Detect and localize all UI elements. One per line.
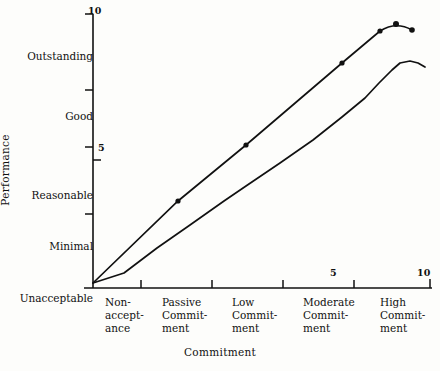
y-category-good: Good bbox=[65, 111, 93, 122]
x-category-line: Passive bbox=[162, 296, 207, 309]
data-line-overlay bbox=[93, 26, 412, 283]
x-axis-title: Commitment bbox=[0, 347, 440, 358]
x-category-line: ment bbox=[380, 322, 425, 335]
data-point-markers bbox=[175, 21, 414, 204]
chart-figure: Performance 10 5 Outstanding Good Reason… bbox=[0, 0, 440, 371]
data-line-performance bbox=[93, 61, 425, 283]
y-category-unacceptable: Unacceptable bbox=[20, 293, 93, 304]
x-category-line: Low bbox=[232, 296, 277, 309]
x-category-passive-commitment: Passive Commit- ment bbox=[162, 296, 207, 334]
x-category-line: Commit- bbox=[162, 309, 207, 322]
y-tick-label-10: 10 bbox=[88, 6, 102, 16]
x-category-line: accept- bbox=[105, 309, 144, 322]
x-axis-ticks bbox=[141, 279, 430, 288]
x-category-line: Commit- bbox=[380, 309, 425, 322]
y-category-minimal: Minimal bbox=[49, 241, 93, 252]
x-category-line: Moderate bbox=[303, 296, 355, 309]
x-category-line: ment bbox=[162, 322, 207, 335]
y-axis-title: Performance bbox=[0, 134, 11, 205]
x-category-low-commitment: Low Commit- ment bbox=[232, 296, 277, 334]
x-category-line: ance bbox=[105, 322, 144, 335]
x-category-line: Commit- bbox=[303, 309, 355, 322]
y-tick-label-5: 5 bbox=[98, 143, 105, 153]
y-category-outstanding: Outstanding bbox=[27, 51, 93, 62]
x-tick-label-5: 5 bbox=[330, 268, 337, 278]
x-category-line: ment bbox=[303, 322, 355, 335]
x-category-line: Commit- bbox=[232, 309, 277, 322]
x-category-line: High bbox=[380, 296, 425, 309]
x-category-line: ment bbox=[232, 322, 277, 335]
y-category-reasonable: Reasonable bbox=[32, 190, 93, 201]
x-category-moderate-commitment: Moderate Commit- ment bbox=[303, 296, 355, 334]
x-category-line: Non- bbox=[105, 296, 144, 309]
x-category-high-commitment: High Commit- ment bbox=[380, 296, 425, 334]
x-category-non-acceptance: Non- accept- ance bbox=[105, 296, 144, 334]
x-tick-label-10: 10 bbox=[417, 268, 431, 278]
